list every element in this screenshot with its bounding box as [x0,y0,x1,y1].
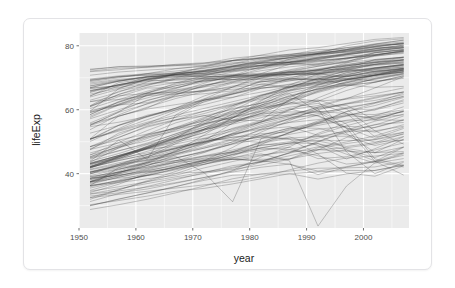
x-tick-label: 1970 [184,233,202,242]
x-tick-label: 2000 [355,233,373,242]
x-tick-label: 1950 [70,233,88,242]
x-axis: 195019601970198019902000 [70,228,373,242]
chart-svg: 406080 195019601970198019902000 year lif… [24,19,433,271]
y-tick-label: 60 [65,106,74,115]
x-tick-label: 1980 [241,233,259,242]
figure-card: 406080 195019601970198019902000 year lif… [23,18,432,270]
y-tick-label: 80 [65,42,74,51]
screenshot-root: 406080 195019601970198019902000 year lif… [0,0,455,288]
x-tick-label: 1990 [298,233,316,242]
y-axis: 406080 [65,42,79,179]
y-axis-title: lifeExp [30,114,42,146]
x-axis-title: year [234,252,255,264]
x-tick-label: 1960 [127,233,145,242]
lifeexp-year-line-chart: 406080 195019601970198019902000 year lif… [24,19,433,271]
y-tick-label: 40 [65,170,74,179]
